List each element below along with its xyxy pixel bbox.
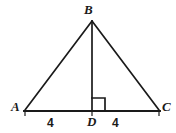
- vertex-label-C: C: [162, 100, 171, 113]
- right-angle-marker-icon: [92, 98, 105, 111]
- segment-length-label-DC: 4: [112, 117, 119, 129]
- vertex-label-D: D: [87, 115, 96, 128]
- geometry-figure: B A C D 4 4: [0, 0, 176, 133]
- vertex-label-A: A: [11, 100, 20, 113]
- vertex-label-B: B: [84, 3, 93, 16]
- segment-BC: [92, 21, 159, 110]
- segment-length-label-AD: 4: [47, 117, 54, 129]
- segment-AB: [25, 21, 92, 110]
